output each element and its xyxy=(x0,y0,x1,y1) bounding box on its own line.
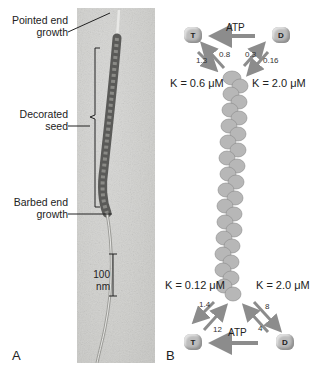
monomer-adp-bottom: D xyxy=(276,334,294,350)
rate-d-on-top: 0.3 xyxy=(245,50,256,59)
k-adp-barbed: K = 2.0 μM xyxy=(256,279,310,291)
k-atp-pointed: K = 0.6 μM xyxy=(170,77,224,89)
monomer-atp-bottom: T xyxy=(184,334,202,350)
atp-label-top: ATP xyxy=(226,22,245,33)
atp-label-bottom: ATP xyxy=(228,327,247,338)
rate-d-off-bottom: 8 xyxy=(265,302,269,311)
panel-a-letter: A xyxy=(12,348,21,363)
rate-d-off-top: 0.16 xyxy=(263,56,279,65)
rate-t-off-bottom: 1.4 xyxy=(199,300,210,309)
k-adp-pointed: K = 2.0 μM xyxy=(252,77,306,89)
barbed-end-label: Barbed end growth xyxy=(4,196,68,220)
rate-t-off-top: 0.8 xyxy=(219,50,230,59)
scale-bar-label: 100 nm xyxy=(78,269,110,293)
kinetics-diagram xyxy=(160,0,315,368)
label-leader-lines xyxy=(0,0,160,368)
rate-t-on-top: 1.3 xyxy=(196,56,207,65)
decorated-seed-label: Decorated seed xyxy=(4,108,68,132)
panel-b-letter: B xyxy=(166,348,175,363)
k-atp-barbed: K = 0.12 μM xyxy=(165,279,225,291)
monomer-adp-top: D xyxy=(272,27,290,43)
rate-t-on-bottom: 12 xyxy=(213,325,222,334)
monomer-atp-top: T xyxy=(184,27,202,43)
rate-d-on-bottom: 4 xyxy=(258,324,262,333)
